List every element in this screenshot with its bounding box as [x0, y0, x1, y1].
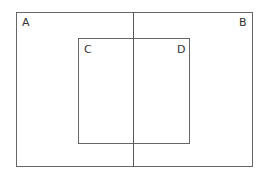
label-d: D — [177, 44, 185, 55]
vertical-divider — [133, 12, 134, 167]
label-c: C — [84, 44, 92, 55]
label-b: B — [239, 17, 247, 28]
label-a: A — [22, 17, 30, 28]
inner-rectangle — [78, 38, 190, 144]
